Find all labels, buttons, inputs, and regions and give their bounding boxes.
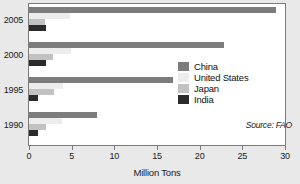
y-axis-tick-1995: 1995: [0, 85, 23, 95]
x-axis-tick-mark-25: [242, 146, 243, 150]
legend-item-united-states: United States: [178, 72, 248, 83]
x-axis-label: Million Tons: [28, 167, 286, 178]
legend: ChinaUnited StatesJapanIndia: [178, 61, 248, 105]
x-axis-tick-label-20: 20: [188, 151, 212, 161]
bar-india-1995: [29, 95, 38, 101]
bar-group-2005: [29, 7, 285, 31]
source-note: Source: FAO: [246, 120, 292, 130]
bar-chart: 2005200019951990 051015202530 Million To…: [0, 0, 300, 184]
x-axis-tick-label-25: 25: [230, 151, 254, 161]
x-axis-tick-label-10: 10: [102, 151, 126, 161]
legend-item-japan: Japan: [178, 83, 248, 94]
bar-india-2000: [29, 60, 46, 66]
x-axis-tick-mark-20: [200, 146, 201, 150]
y-axis-tick-2000: 2000: [0, 50, 23, 60]
legend-swatch-icon-china: [178, 62, 189, 71]
legend-label: United States: [194, 72, 248, 83]
bar-india-1990: [29, 130, 38, 136]
legend-swatch-icon-japan: [178, 84, 189, 93]
x-axis-tick-mark-30: [285, 146, 286, 150]
y-axis-tick-2005: 2005: [0, 15, 23, 25]
x-axis-tick-label-30: 30: [273, 151, 297, 161]
x-axis-tick-mark-0: [29, 146, 30, 150]
x-axis-tick-label-0: 0: [17, 151, 41, 161]
legend-label: Japan: [194, 83, 219, 94]
legend-item-china: China: [178, 61, 248, 72]
x-axis-tick-label-15: 15: [145, 151, 169, 161]
x-axis: 051015202530: [28, 146, 286, 147]
x-axis-tick-mark-5: [72, 146, 73, 150]
x-axis-tick-label-5: 5: [60, 151, 84, 161]
legend-swatch-icon-india: [178, 95, 189, 104]
legend-label: China: [194, 61, 218, 72]
x-axis-tick-mark-15: [157, 146, 158, 150]
x-axis-tick-mark-10: [114, 146, 115, 150]
legend-item-india: India: [178, 94, 248, 105]
legend-label: India: [194, 94, 214, 105]
bar-india-2005: [29, 25, 46, 31]
y-axis-tick-1990: 1990: [0, 120, 23, 130]
legend-swatch-icon-united-states: [178, 73, 189, 82]
